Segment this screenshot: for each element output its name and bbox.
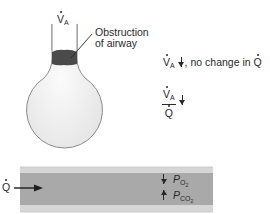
ratio-fraction: VA Q — [162, 89, 176, 119]
airway-obstruction — [52, 50, 77, 66]
alveolus — [27, 24, 103, 148]
arrow-down-icon — [160, 174, 167, 184]
obstruction-label: Obstruction of airway — [95, 27, 149, 49]
arrow-up-icon — [160, 190, 167, 200]
ventilation-decrease-annotation: VA , no change in Q — [163, 57, 262, 71]
va-q-ratio-annotation: VA Q — [162, 89, 186, 119]
obstruction-label-line2: of airway — [95, 38, 149, 49]
blood-flow-label: Q — [2, 182, 10, 193]
pco2-label: PCO2 — [160, 190, 193, 207]
arrow-down-icon — [179, 95, 186, 105]
alveolar-ventilation-label: VA — [57, 14, 69, 28]
arrow-down-icon — [178, 57, 185, 67]
v-dot-symbol: V — [57, 14, 64, 25]
